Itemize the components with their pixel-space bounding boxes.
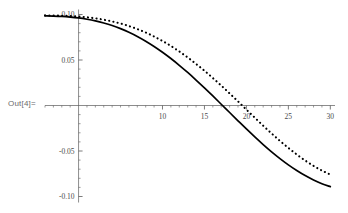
dotted-curve — [45, 15, 330, 174]
plot-canvas: 10152025300.100.05-0.05-0.10 — [0, 0, 348, 213]
y-tick-label: -0.05 — [59, 147, 75, 156]
x-tick-label: 25 — [285, 112, 293, 121]
x-tick-label: 20 — [243, 112, 251, 121]
axes-layer — [45, 10, 335, 203]
x-tick-label: 15 — [201, 112, 209, 121]
plot-output-cell: Out[4]= 10152025300.100.05-0.05-0.10 — [0, 0, 348, 213]
x-tick-label: 10 — [159, 112, 167, 121]
y-tick-label: 0.05 — [61, 56, 74, 65]
curves-layer — [45, 15, 330, 186]
solid-curve — [45, 16, 330, 187]
y-tick-label: -0.10 — [59, 192, 75, 201]
x-tick-label: 30 — [327, 112, 335, 121]
